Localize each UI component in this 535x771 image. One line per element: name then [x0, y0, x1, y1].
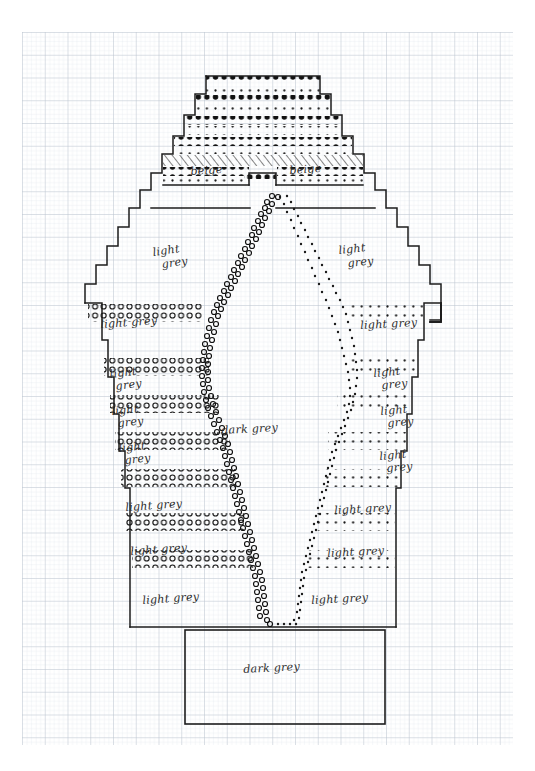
label-light-grey-right-6: light grey	[327, 545, 385, 560]
symbol-row-filled-4	[174, 137, 352, 146]
symbol-row-dots-2	[196, 105, 330, 114]
symbol-row-filled-1	[206, 76, 320, 83]
label-light-grey-right-7: light grey	[311, 592, 369, 607]
divider-row-right-6b	[315, 522, 395, 531]
symbol-row-dots-5-left	[163, 177, 249, 185]
graph-paper-sheet	[22, 32, 513, 745]
divider-row-left-1	[88, 304, 203, 313]
label-light-grey-left-4-line2: grey	[124, 452, 151, 466]
label-light-grey-right-2-line2: grey	[381, 378, 408, 392]
label-beige-right: beige	[289, 163, 322, 177]
chart-canvas	[22, 32, 513, 745]
symbol-row-dots-5-right	[277, 177, 363, 185]
label-dark-grey-hem: dark grey	[243, 661, 300, 676]
symbol-row-dots-4	[174, 147, 352, 154]
symbol-row-dots-1	[206, 84, 320, 93]
label-beige-left: beige	[190, 164, 223, 178]
label-light-grey-yoke-right-line2: grey	[347, 255, 374, 269]
divider-row-left-6	[126, 513, 244, 522]
symbol-row-filled-2	[196, 95, 330, 104]
label-dark-grey-body: dark grey	[221, 422, 278, 437]
label-light-grey-right-3-line2: grey	[387, 416, 414, 430]
label-light-grey-right-1: light grey	[360, 317, 418, 332]
label-light-grey-right-5: light grey	[334, 502, 392, 517]
divider-row-right-4	[328, 432, 406, 441]
divider-row-left-6b	[126, 522, 244, 531]
divider-row-left-7b	[132, 559, 254, 568]
divider-row-left-5	[121, 469, 236, 478]
symbol-row-filled-3	[185, 116, 341, 125]
label-light-grey-right-4-line2: grey	[386, 461, 413, 475]
symbol-row-dots-3	[185, 126, 341, 135]
divider-row-right-5b	[322, 478, 400, 487]
pattern-page: beige beige light grey light grey light …	[0, 0, 535, 771]
divider-row-left-5b	[121, 478, 236, 487]
label-light-grey-left-3-line2: grey	[117, 415, 144, 429]
divider-row-right-1	[351, 304, 423, 313]
divider-row-right-7b	[308, 559, 395, 568]
